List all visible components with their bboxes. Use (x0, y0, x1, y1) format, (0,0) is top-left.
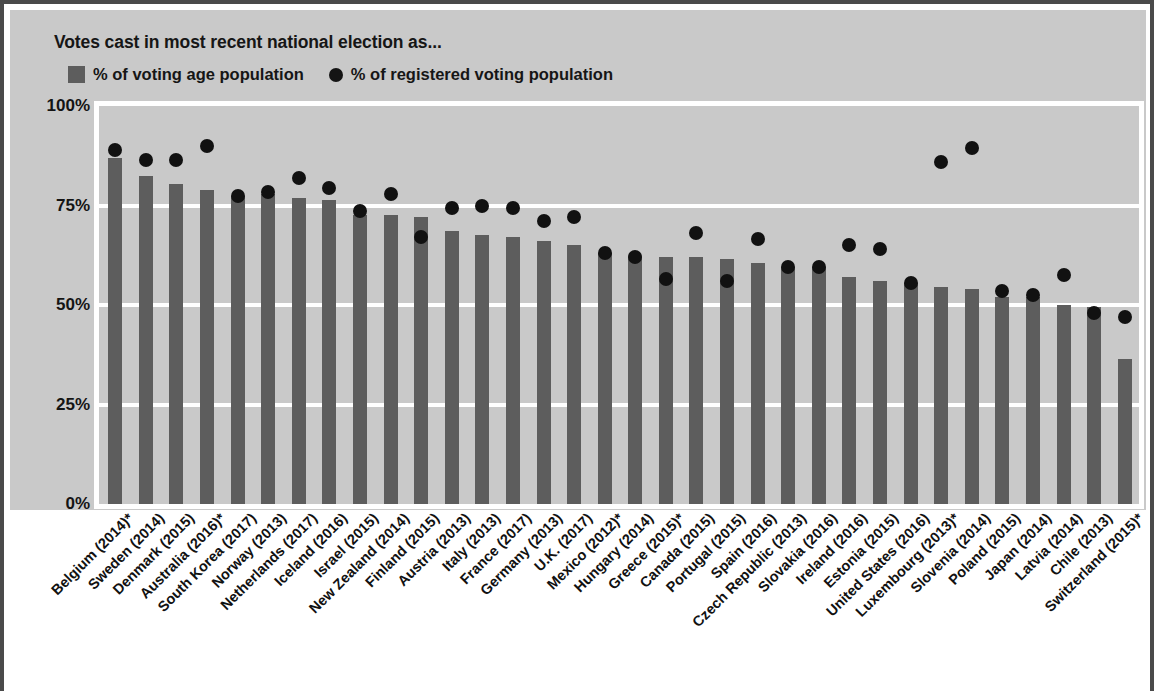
data-point-dot (598, 246, 612, 260)
data-point-dot (995, 284, 1009, 298)
plot-inner (99, 106, 1139, 504)
bar (842, 277, 856, 504)
data-point-dot (108, 143, 122, 157)
bar (659, 257, 673, 504)
data-point-dot (965, 141, 979, 155)
data-point-dot (567, 210, 581, 224)
data-point-dot (659, 272, 673, 286)
bar (598, 253, 612, 504)
data-point-dot (689, 226, 703, 240)
bar (781, 267, 795, 504)
data-point-dot (1118, 310, 1132, 324)
gridline-75 (99, 204, 1139, 208)
bar (1026, 297, 1040, 504)
y-tick-label-100: 100% (47, 96, 90, 116)
data-point-dot (720, 274, 734, 288)
bar (292, 198, 306, 504)
gridline-50 (99, 303, 1139, 307)
bar (475, 235, 489, 504)
plot-area (94, 101, 1144, 509)
data-point-dot (261, 185, 275, 199)
chart-figure: Votes cast in most recent national elect… (0, 0, 1154, 691)
data-point-dot (292, 171, 306, 185)
data-point-dot (934, 155, 948, 169)
bar (231, 196, 245, 504)
data-point-dot (842, 238, 856, 252)
bar (353, 215, 367, 504)
data-point-dot (414, 230, 428, 244)
bar (322, 200, 336, 504)
bar (384, 215, 398, 504)
bar (445, 231, 459, 504)
bar (689, 257, 703, 504)
gridline-25 (99, 403, 1139, 407)
data-point-dot (812, 260, 826, 274)
data-point-dot (506, 201, 520, 215)
data-point-dot (169, 153, 183, 167)
bar (414, 217, 428, 504)
bar (628, 257, 642, 504)
data-point-dot (231, 189, 245, 203)
data-point-dot (1087, 306, 1101, 320)
data-point-dot (200, 139, 214, 153)
data-point-dot (384, 187, 398, 201)
data-point-dot (353, 204, 367, 218)
bar (751, 263, 765, 504)
data-point-dot (751, 232, 765, 246)
bar (169, 184, 183, 504)
data-point-dot (475, 199, 489, 213)
data-point-dot (781, 260, 795, 274)
bar (873, 281, 887, 504)
bar (904, 283, 918, 504)
bar (965, 289, 979, 504)
bar (934, 287, 948, 504)
bar (108, 158, 122, 504)
y-tick-label-25: 25% (56, 395, 90, 415)
data-point-dot (628, 250, 642, 264)
data-point-dot (139, 153, 153, 167)
x-axis-labels: Belgium (2014)*Sweden (2014)Denmark (201… (4, 510, 1150, 691)
data-point-dot (904, 276, 918, 290)
bar (720, 259, 734, 504)
bar (1087, 307, 1101, 504)
data-point-dot (322, 181, 336, 195)
bar (1118, 359, 1132, 504)
data-point-dot (873, 242, 887, 256)
bar (200, 190, 214, 504)
bar (139, 176, 153, 504)
data-point-dot (1057, 268, 1071, 282)
bar (261, 194, 275, 504)
data-point-dot (537, 214, 551, 228)
bar (1057, 305, 1071, 504)
y-tick-label-75: 75% (56, 196, 90, 216)
data-point-dot (445, 201, 459, 215)
chart-card: Votes cast in most recent national elect… (10, 10, 1146, 510)
bar (537, 241, 551, 504)
y-tick-label-50: 50% (56, 295, 90, 315)
bar (506, 237, 520, 504)
data-point-dot (1026, 288, 1040, 302)
bar (995, 297, 1009, 504)
bar (812, 267, 826, 504)
bar (567, 245, 581, 504)
